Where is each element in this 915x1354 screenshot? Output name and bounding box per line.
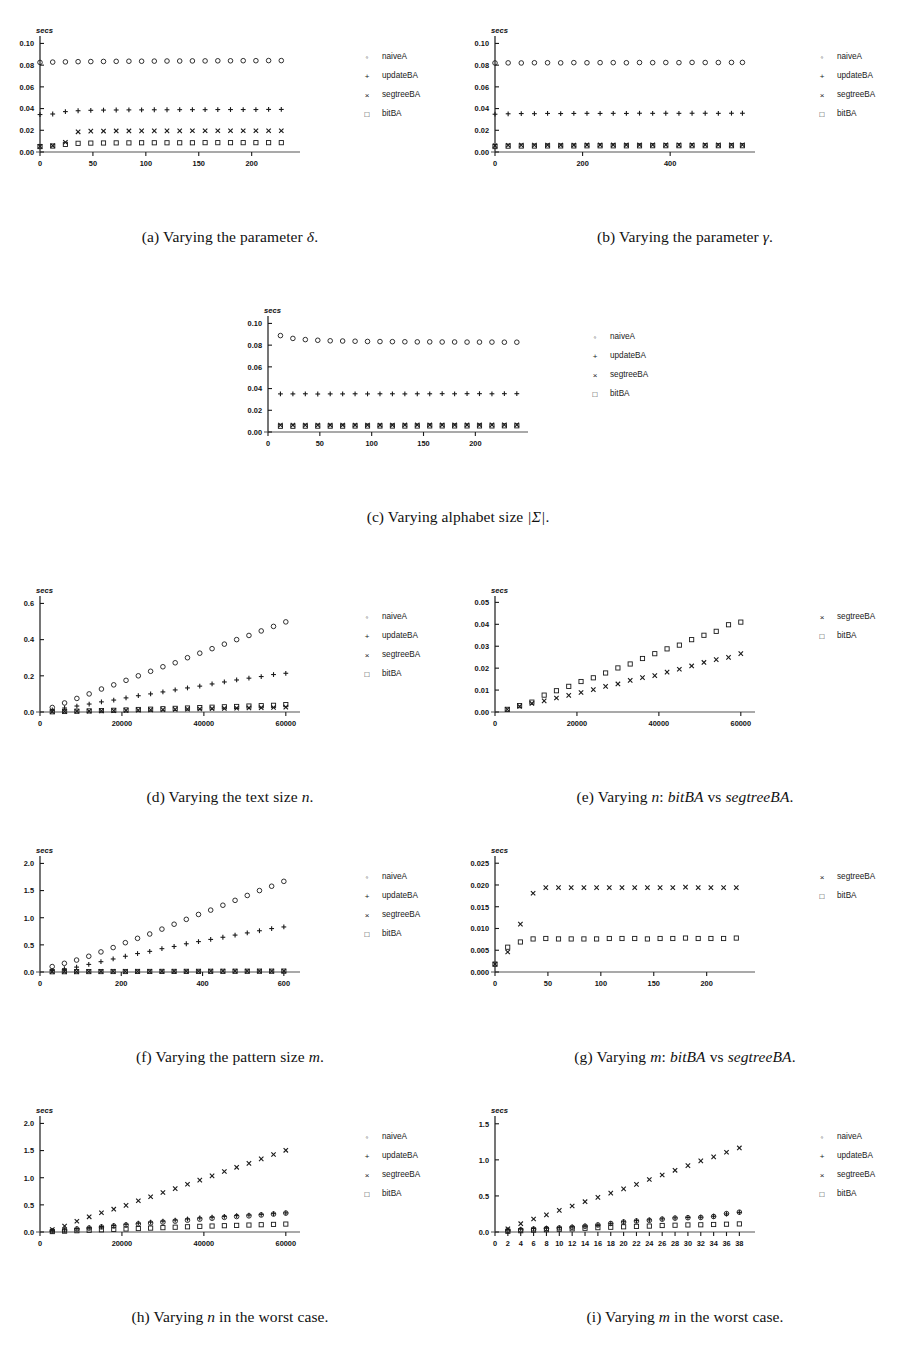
- data-point-circle: [257, 888, 262, 893]
- data-point-circle: [63, 60, 68, 65]
- data-point-square: [665, 647, 669, 651]
- data-point-plus: [185, 686, 190, 691]
- data-point-circle: [111, 683, 116, 688]
- data-point-plus: [716, 111, 721, 116]
- data-point-circle: [222, 642, 227, 647]
- plot-wrap-a: secs0.000.020.040.060.080.10050100150200…: [0, 22, 460, 182]
- legend-item-naiveA: ◦naiveA: [360, 1128, 420, 1147]
- legend-label: naiveA: [837, 53, 862, 61]
- cross-marker-icon: ×: [588, 372, 602, 380]
- data-point-plus: [254, 107, 259, 112]
- data-point-square: [696, 936, 700, 940]
- data-point-plus: [353, 391, 358, 396]
- data-point-square: [658, 936, 662, 940]
- data-point-plus: [99, 699, 104, 704]
- data-point-cross: [185, 1182, 189, 1186]
- data-point-plus: [703, 111, 708, 116]
- square-marker-icon: □: [815, 893, 829, 901]
- data-point-plus: [257, 928, 262, 933]
- data-point-plus: [87, 702, 92, 707]
- caption-text: .: [769, 228, 773, 245]
- caption-i: (i) Varying m in the worst case.: [455, 1308, 915, 1326]
- data-point-plus: [114, 108, 119, 113]
- data-point-square: [620, 936, 624, 940]
- data-point-cross: [222, 1169, 226, 1173]
- legend-label: naiveA: [382, 53, 407, 61]
- caption-math: bitBA: [668, 788, 704, 805]
- series-updateBA: [50, 1210, 288, 1233]
- y-tick-label: 0.08: [248, 341, 262, 350]
- x-tick-label: 200: [115, 979, 127, 988]
- y-unit-label: secs: [36, 26, 53, 35]
- circle-marker-icon: ◦: [588, 334, 602, 342]
- data-point-square: [101, 141, 105, 145]
- data-point-cross: [172, 969, 176, 973]
- plot-wrap-f: secs0.00.51.01.52.00200400600m◦naiveA+up…: [0, 842, 460, 1002]
- data-point-cross: [185, 707, 189, 711]
- legend-label: segtreeBA: [382, 651, 420, 659]
- data-point-plus: [233, 933, 238, 938]
- data-point-square: [591, 676, 595, 680]
- data-point-plus: [165, 107, 170, 112]
- data-point-circle: [165, 59, 170, 64]
- caption-math: bitBA: [670, 1048, 706, 1065]
- data-point-cross: [112, 1207, 116, 1211]
- data-point-square: [76, 141, 80, 145]
- data-point-square: [595, 937, 599, 941]
- caption-text: .: [792, 1048, 796, 1065]
- data-point-cross: [254, 129, 258, 133]
- x-tick-label: 200: [245, 159, 257, 168]
- y-tick-label: 0.02: [20, 126, 34, 135]
- data-point-cross: [203, 129, 207, 133]
- data-point-plus: [637, 111, 642, 116]
- caption-math: n: [302, 788, 310, 805]
- data-point-cross: [531, 1217, 535, 1221]
- data-point-square: [152, 141, 156, 145]
- data-point-cross: [683, 885, 687, 889]
- y-unit-label: secs: [264, 306, 281, 315]
- legend-item-segtreeBA: ×segtreeBA: [815, 868, 875, 887]
- x-tick-label: 32: [697, 1239, 705, 1248]
- y-tick-label: 2.0: [24, 859, 34, 868]
- y-tick-label: 1.0: [24, 914, 34, 923]
- data-point-cross: [127, 129, 131, 133]
- data-point-cross: [165, 129, 169, 133]
- circle-marker-icon: ◦: [360, 1134, 374, 1142]
- data-point-plus: [172, 944, 177, 949]
- plot-wrap-h: secs0.00.51.01.52.00200004000060000n◦nai…: [0, 1102, 460, 1262]
- square-marker-icon: □: [360, 1191, 374, 1199]
- legend-label: segtreeBA: [837, 613, 875, 621]
- data-point-plus: [519, 111, 524, 116]
- y-tick-label: 1.5: [24, 1146, 34, 1155]
- data-point-plus: [139, 107, 144, 112]
- data-point-cross: [328, 423, 332, 427]
- series-naiveA: [493, 60, 745, 65]
- data-point-circle: [465, 340, 470, 345]
- square-marker-icon: □: [360, 111, 374, 119]
- x-tick-label: 6: [532, 1239, 536, 1248]
- series-naiveA: [50, 620, 288, 710]
- data-point-circle: [515, 340, 520, 345]
- data-point-circle: [152, 59, 157, 64]
- data-point-square: [633, 936, 637, 940]
- circle-marker-icon: ◦: [815, 54, 829, 62]
- data-point-circle: [62, 701, 67, 706]
- data-point-plus: [196, 939, 201, 944]
- data-point-cross: [673, 1168, 677, 1172]
- data-point-square: [284, 1222, 288, 1226]
- legend-label: naiveA: [382, 873, 407, 881]
- data-point-plus: [136, 693, 141, 698]
- data-point-square: [686, 1223, 690, 1227]
- data-point-circle: [353, 339, 358, 344]
- data-point-plus: [88, 108, 93, 113]
- data-point-cross: [216, 129, 220, 133]
- data-point-cross: [233, 969, 237, 973]
- caption-math: m: [650, 1048, 661, 1065]
- data-point-square: [173, 1225, 177, 1229]
- y-tick-label: 0.005: [471, 946, 490, 955]
- data-point-plus: [161, 690, 166, 695]
- data-point-circle: [210, 646, 215, 651]
- data-point-cross: [653, 673, 657, 677]
- x-tick-label: 150: [193, 159, 205, 168]
- data-point-circle: [99, 687, 104, 692]
